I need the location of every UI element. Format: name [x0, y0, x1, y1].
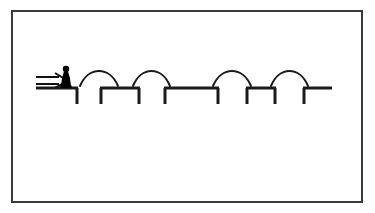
figure-base: [60, 86, 71, 89]
canvas-background: [0, 0, 375, 213]
diagram-svg-root: [0, 0, 375, 213]
figure-head: [63, 66, 69, 72]
diagram-canvas: [0, 0, 375, 213]
